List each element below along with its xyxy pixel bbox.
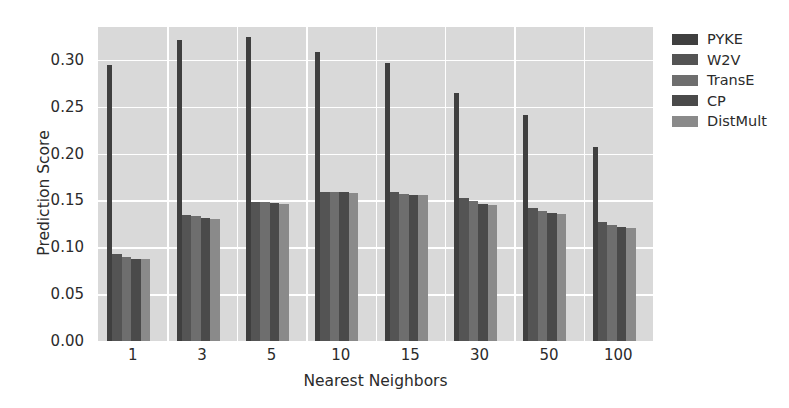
y-tick-label: 0.10 [51, 238, 84, 256]
x-axis-ticks: 13510153050100 [98, 346, 653, 370]
y-axis-label: Prediction Score [35, 103, 53, 283]
bar-group [107, 27, 150, 341]
bar-group [246, 27, 289, 341]
x-tick-label: 3 [197, 346, 207, 364]
bar-transe [538, 211, 548, 341]
x-tick-label: 15 [401, 346, 420, 364]
y-tick-label: 0.30 [51, 51, 84, 69]
bar-distmult [141, 259, 151, 341]
bar-group [315, 27, 358, 341]
plot-area [98, 27, 653, 341]
legend-item: TransE [672, 73, 767, 87]
bar-transe [399, 194, 409, 341]
legend-swatch-pyke [672, 34, 698, 45]
bar-transe [260, 202, 270, 341]
bar-w2v [182, 215, 192, 341]
gridline-vertical [514, 27, 516, 341]
bar-cp [270, 203, 280, 341]
bar-cp [547, 213, 557, 341]
chart-legend: PYKEW2VTransECPDistMult [672, 32, 767, 128]
gridline-vertical [376, 27, 378, 341]
bar-cp [617, 227, 627, 341]
x-tick-label: 100 [604, 346, 633, 364]
legend-label: PYKE [707, 32, 743, 46]
bar-transe [330, 192, 340, 341]
y-tick-label: 0.05 [51, 285, 84, 303]
bar-w2v [251, 202, 261, 341]
bar-group [454, 27, 497, 341]
bar-cp [201, 218, 211, 341]
bar-distmult [626, 228, 636, 341]
y-tick-label: 0.15 [51, 191, 84, 209]
bar-distmult [488, 205, 498, 341]
legend-item: CP [672, 94, 767, 108]
bar-w2v [598, 222, 608, 341]
gridline-vertical [167, 27, 169, 341]
bar-distmult [349, 193, 359, 341]
legend-label: DistMult [707, 114, 767, 128]
y-tick-label: 0.25 [51, 98, 84, 116]
bar-group [593, 27, 636, 341]
bar-cp [409, 195, 419, 341]
gridline-vertical [237, 27, 239, 341]
legend-label: TransE [707, 73, 754, 87]
legend-item: W2V [672, 53, 767, 67]
bar-distmult [418, 195, 428, 341]
x-tick-label: 10 [331, 346, 350, 364]
legend-label: CP [707, 94, 726, 108]
bar-cp [339, 192, 349, 341]
y-tick-label: 0.00 [51, 332, 84, 350]
bar-transe [191, 216, 201, 341]
legend-item: PYKE [672, 32, 767, 46]
bar-distmult [210, 219, 220, 341]
legend-item: DistMult [672, 114, 767, 128]
legend-swatch-w2v [672, 54, 698, 65]
legend-swatch-distmult [672, 116, 698, 127]
bar-w2v [320, 192, 330, 341]
bar-transe [607, 225, 617, 341]
bar-cp [478, 204, 488, 341]
bar-transe [122, 257, 132, 341]
gridline-vertical [445, 27, 447, 341]
bar-w2v [459, 198, 469, 341]
gridline-vertical [584, 27, 586, 341]
bar-transe [469, 201, 479, 341]
bar-w2v [528, 208, 538, 341]
bar-group [385, 27, 428, 341]
gridline-vertical [306, 27, 308, 341]
bar-distmult [557, 214, 567, 341]
x-tick-label: 50 [539, 346, 558, 364]
bar-group [523, 27, 566, 341]
chart-figure: 0.000.050.100.150.200.250.30 Prediction … [0, 0, 789, 408]
x-tick-label: 5 [267, 346, 277, 364]
y-tick-label: 0.20 [51, 145, 84, 163]
legend-swatch-transe [672, 75, 698, 86]
legend-label: W2V [707, 53, 740, 67]
bar-w2v [390, 192, 400, 341]
x-tick-label: 30 [470, 346, 489, 364]
bar-group [177, 27, 220, 341]
bar-distmult [279, 204, 289, 341]
x-axis-label: Nearest Neighbors [98, 372, 653, 390]
x-tick-label: 1 [128, 346, 138, 364]
bar-w2v [112, 254, 122, 341]
legend-swatch-cp [672, 95, 698, 106]
bar-cp [131, 259, 141, 341]
